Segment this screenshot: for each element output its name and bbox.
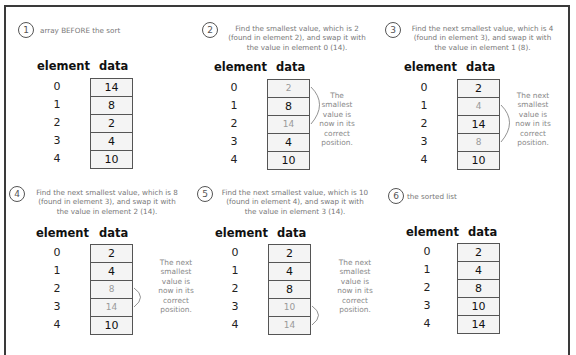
swap-note: The smallest value is now in its correct… (307, 91, 367, 147)
data-column-header: data (277, 226, 306, 240)
note-line: The next (146, 258, 206, 267)
step-description: Find the next smallest value, which is 4… (395, 24, 570, 52)
array-cell-swapped: 2 (268, 80, 309, 98)
index-label: 2 (224, 117, 244, 130)
index-label: 0 (414, 81, 434, 94)
description-line: the value in element 2 (14). (22, 207, 192, 216)
array-cell: 10 (91, 317, 132, 334)
data-column-header: data (466, 60, 495, 74)
array-cells: 2 4 8 10 14 (268, 244, 311, 335)
index-label: 3 (225, 300, 245, 313)
note-line: now in its (146, 286, 206, 295)
array-cell: 8 (269, 281, 310, 299)
element-column-header: element (214, 60, 267, 74)
description-line: Find the next smallest value, which is 4 (395, 24, 570, 33)
array-cell: 2 (458, 244, 499, 262)
note-line: smallest (307, 100, 367, 109)
note-line: correct (503, 129, 563, 138)
step-description: Find the next smallest value, which is 8… (22, 188, 192, 216)
note-line: The next (503, 91, 563, 100)
note-line: smallest (146, 267, 206, 276)
array-cell-swapped: 8 (458, 134, 499, 152)
array-cell: 2 (458, 80, 499, 98)
array-cell-swapped: 4 (458, 98, 499, 116)
data-column-header: data (468, 225, 497, 239)
note-line: value is (325, 277, 385, 286)
array-cells: 2 4 14 8 10 (457, 79, 500, 170)
description-line: (found in element 3), and swap it with (22, 197, 192, 206)
array-cell: 8 (268, 98, 309, 116)
note-line: value is (503, 110, 563, 119)
description-line: (found in element 2), and swap it with (212, 33, 382, 42)
index-label: 2 (47, 282, 67, 295)
index-label: 4 (417, 317, 437, 330)
note-line: smallest (325, 267, 385, 276)
description-line: (found in element 4), and swap it with (210, 197, 380, 206)
array-cell-swapped: 14 (268, 116, 309, 134)
index-label: 4 (225, 318, 245, 331)
step-description: Find the smallest value, which is 2 (fou… (212, 24, 382, 52)
note-line: position. (146, 305, 206, 314)
index-label: 2 (225, 282, 245, 295)
array-cell-swapped: 14 (269, 317, 310, 334)
note-line: correct (307, 129, 367, 138)
description-line: Find the smallest value, which is 2 (212, 24, 382, 33)
description-line: the value in element 0 (14). (212, 43, 382, 52)
note-line: position. (325, 305, 385, 314)
note-line: correct (325, 296, 385, 305)
swap-note: The next smallest value is now in its co… (325, 258, 385, 314)
array-cell: 2 (269, 245, 310, 263)
index-label: 4 (414, 153, 434, 166)
element-column-header: element (215, 226, 268, 240)
description-line: (found in element 3), and swap it with (395, 33, 570, 42)
step-number-badge: 6 (388, 188, 404, 204)
index-label: 0 (47, 246, 67, 259)
description-line: the value in element 1 (8). (395, 43, 570, 52)
array-cells: 2 4 8 10 14 (457, 243, 500, 334)
index-label: 2 (417, 281, 437, 294)
note-line: position. (307, 138, 367, 147)
array-cell: 4 (269, 263, 310, 281)
note-line: The next (325, 258, 385, 267)
description-line: the value in element 3 (14). (210, 207, 380, 216)
swap-arc-icon (311, 305, 325, 327)
index-label: 3 (224, 135, 244, 148)
element-column-header: element (404, 60, 457, 74)
array-cell: 14 (458, 316, 499, 333)
description-line: Find the next smallest value, which is 1… (210, 188, 380, 197)
index-label: 4 (47, 318, 67, 331)
array-cell: 4 (91, 263, 132, 281)
index-label: 1 (224, 99, 244, 112)
swap-note: The next smallest value is now in its co… (503, 91, 563, 147)
array-cell: 10 (268, 152, 309, 169)
note-line: The (307, 91, 367, 100)
array-cell: 10 (458, 298, 499, 316)
swap-arc-icon (133, 287, 147, 309)
swap-note: The next smallest value is now in its co… (146, 258, 206, 314)
array-cell: 8 (458, 280, 499, 298)
array-cell: 2 (91, 245, 132, 263)
note-line: now in its (307, 119, 367, 128)
note-line: position. (503, 138, 563, 147)
step-description: Find the next smallest value, which is 1… (210, 188, 380, 216)
element-column-header: element (406, 225, 459, 239)
array-cell-swapped: 10 (269, 299, 310, 317)
step-description: the sorted list (407, 192, 547, 201)
index-label: 4 (224, 153, 244, 166)
element-column-header: element (36, 226, 89, 240)
description-line: Find the next smallest value, which is 8 (22, 188, 192, 197)
array-cells: 2 8 14 4 10 (267, 79, 310, 170)
note-line: smallest (503, 100, 563, 109)
array-cell-swapped: 14 (91, 299, 132, 317)
array-cell: 4 (458, 262, 499, 280)
index-label: 1 (417, 263, 437, 276)
note-line: value is (146, 277, 206, 286)
index-label: 1 (414, 99, 434, 112)
data-column-header: data (99, 226, 128, 240)
note-line: value is (307, 110, 367, 119)
index-label: 0 (417, 245, 437, 258)
array-cell: 4 (268, 134, 309, 152)
array-cell: 14 (458, 116, 499, 134)
index-label: 3 (417, 299, 437, 312)
index-label: 0 (224, 81, 244, 94)
